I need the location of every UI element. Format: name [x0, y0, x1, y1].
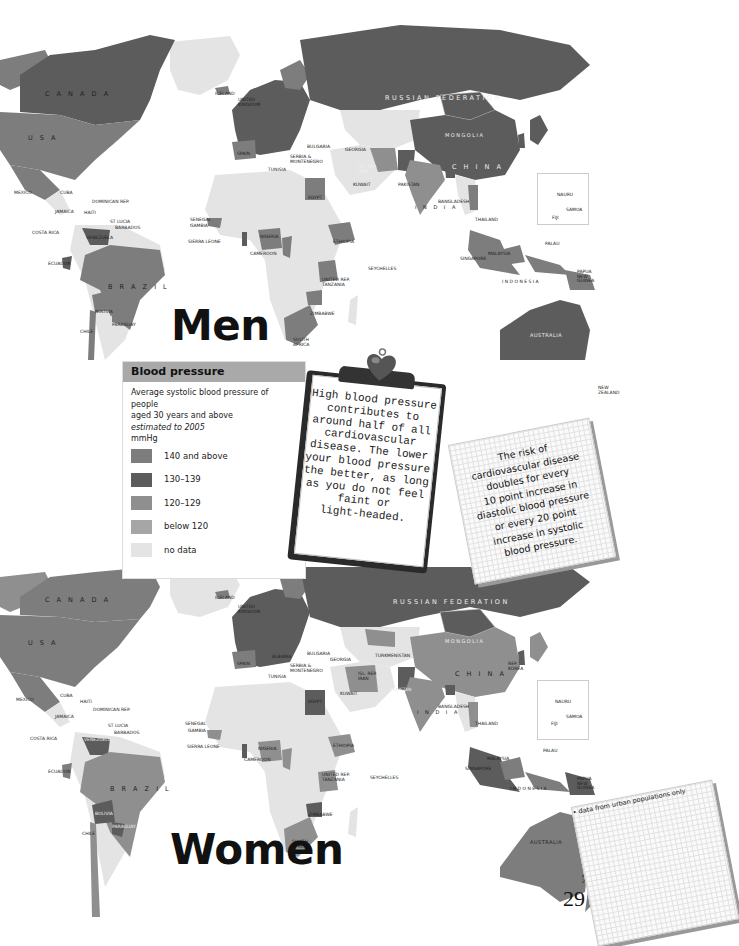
legend-panel: Blood pressure Average systolic blood pr… [122, 361, 306, 579]
label-gambia: GAMBIA [190, 224, 208, 229]
legend-item: no data [131, 539, 297, 563]
label-dominican: DOMINICAN REP. [92, 200, 129, 205]
label-iran: ISL. REP. IRAN [358, 165, 378, 174]
legend-item-label: 120–129 [164, 498, 201, 510]
label-uk: UNITED KINGDOM [238, 605, 260, 614]
legend-swatch [131, 449, 152, 463]
men-map-shapes [0, 0, 623, 360]
legend-swatch [131, 543, 152, 557]
label-bolivia: BOLIVIA [95, 812, 113, 817]
label-spain: SPAIN [237, 152, 250, 157]
label-paraguay: PARAGUAY [112, 323, 136, 328]
legend-item: 120–129 [131, 492, 297, 516]
legend-item: below 120 [131, 515, 297, 539]
legend-title: Blood pressure [123, 362, 305, 382]
women-title: Women [170, 829, 343, 871]
label-pakistan: PAKISTAN [398, 183, 419, 188]
label-india: I N D I A [415, 205, 458, 210]
label-kuwait: KUWAIT [340, 692, 357, 697]
legend-unit: mmHg [131, 433, 297, 445]
label-brazil: B R A Z I L [108, 284, 169, 291]
label-stlucia: ST LUCIA [110, 220, 130, 225]
label-seychelles: SEYCHELLES [368, 267, 396, 272]
label-russia: RUSSIAN FEDERATION [393, 599, 510, 606]
label-india: I N D I A [417, 710, 460, 715]
label-tanzania: UNITED REP. TANZANIA [322, 278, 352, 287]
legend-item-label: 140 and above [164, 451, 228, 463]
label-palau: PALAU [545, 242, 560, 247]
label-mexico: MEXICO [16, 698, 34, 703]
label-costarica: COSTA RICA [30, 737, 57, 742]
legend-item-label: 130–139 [164, 474, 201, 486]
legend-item: 140 and above [131, 445, 297, 469]
label-mongolia: MONGOLIA [445, 133, 484, 138]
label-korea: REP. KOREA [508, 662, 526, 671]
label-thailand: THAILAND [475, 218, 498, 223]
label-bangladesh: BANGLADESH [438, 705, 469, 710]
label-haiti: HAITI [80, 700, 92, 705]
label-nigeria: NIGERIA [258, 747, 277, 752]
label-mexico: MEXICO [14, 191, 32, 196]
label-russia: RUSSIAN FEDERATION [385, 95, 502, 102]
label-nauru: NAURU [557, 193, 573, 198]
women-map: C A N A D A U S A RUSSIAN FEDERATION MON… [0, 567, 623, 922]
label-nigeria: NIGERIA [260, 235, 279, 240]
label-costarica: COSTA RICA [32, 231, 59, 236]
label-ethiopia: ETHIOPIA [333, 744, 354, 749]
label-png: PAPUA NEW GUINEA [577, 270, 595, 284]
label-dominican: DOMINICAN REP. [93, 708, 130, 713]
label-australia: AUSTRALIA [530, 840, 562, 845]
label-iran: ISL. REP. IRAN [358, 672, 378, 681]
label-singapore: SINGAPORE [460, 257, 486, 262]
label-kuwait: KUWAIT [353, 183, 370, 188]
label-tanzania: UNITED REP. TANZANIA [322, 773, 352, 782]
risk-note-card: The risk of cardiovascular disease doubl… [448, 418, 616, 585]
pacific-inset-men [537, 173, 589, 225]
label-stlucia: ST LUCIA [108, 724, 128, 729]
label-brazil: B R A Z I L [110, 786, 171, 793]
label-usa: U S A [28, 135, 58, 142]
label-senegal: SENEGAL [190, 218, 211, 223]
label-egypt: EGYPT [308, 700, 322, 705]
label-png: PAPUA NEW GUINEA [577, 777, 595, 791]
label-malaysia: MALAYSIA [487, 757, 509, 762]
label-uk: UNITED KINGDOM [238, 98, 260, 107]
label-china: C H I N A [452, 164, 503, 171]
label-senegal: SENEGAL [185, 722, 206, 727]
label-ecuador: ECUADOR [48, 262, 71, 267]
legend-desc-2: aged 30 years and above [131, 410, 297, 422]
label-cuba: CUBA [60, 694, 73, 699]
label-pakistan: PAKISTAN [390, 688, 411, 693]
label-venezuela: VENEZUELA [84, 738, 111, 743]
label-gambia: GAMBIA [188, 729, 206, 734]
label-paraguay: PARAGUAY [112, 825, 136, 830]
label-serbia: SERBIA & MONTENEGRO [290, 664, 320, 673]
label-georgia: GEORGIA [330, 658, 351, 663]
label-singapore: SINGAPORE [465, 767, 491, 772]
label-canada: C A N A D A [45, 91, 111, 98]
label-bulgaria: BULGARIA [307, 145, 330, 150]
label-chile: CHILE [80, 330, 93, 335]
legend-swatch [131, 520, 152, 534]
label-bulgaria: BULGARIA [307, 652, 330, 657]
label-mongolia: MONGOLIA [445, 639, 484, 644]
label-haiti: HAITI [84, 211, 96, 216]
label-venezuela: VENEZUELA [86, 236, 113, 241]
clipboard-text: High blood pressure contributes to aroun… [298, 387, 439, 528]
heart-icon [361, 346, 401, 386]
label-fiji: FIJI [551, 722, 558, 727]
label-tunisia: TUNISIA [268, 168, 286, 173]
label-sierraleone: SIERRA LEONE [188, 240, 221, 245]
label-seychelles: SEYCHELLES [370, 776, 398, 781]
label-barbados: BARBADOS [114, 731, 139, 736]
label-fiji: FIJI [552, 216, 559, 221]
label-tunisia: TUNISIA [268, 675, 286, 680]
label-bolivia: BOLIVIA [95, 310, 113, 315]
label-ethiopia: ETHIOPIA [333, 240, 354, 245]
label-georgia: GEORGIA [345, 148, 366, 153]
legend-urban-note: • data from urban populations only [571, 780, 739, 946]
label-bangladesh: BANGLADESH [438, 200, 469, 205]
legend-item-label: no data [164, 545, 196, 557]
legend-swatch [131, 496, 152, 510]
label-china: C H I N A [455, 671, 506, 678]
